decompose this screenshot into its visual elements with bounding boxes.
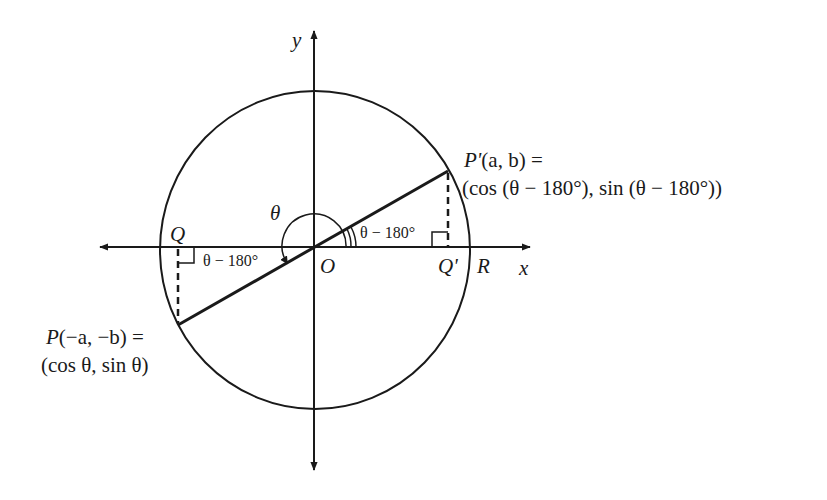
theta-label: θ: [270, 203, 280, 224]
p-value: (cos θ, sin θ): [41, 355, 149, 376]
reference-angle-label-right: θ − 180°: [360, 225, 415, 241]
reference-angle-arc-right-outer: [351, 227, 356, 247]
reference-angle-label-left: θ − 180°: [203, 253, 258, 269]
p-name: P: [46, 325, 59, 349]
reference-angle-arc-right-inner: [347, 229, 351, 247]
p-prime-name: P': [464, 148, 481, 172]
point-label-q-prime: Q': [438, 256, 458, 277]
right-angle-marker-q: [178, 247, 194, 263]
p-annotation: P(−a, −b) =: [46, 327, 144, 348]
p-coords: (−a, −b) =: [59, 325, 144, 349]
p-prime-coords: (a, b) =: [481, 148, 542, 172]
x-axis-label: x: [519, 258, 528, 279]
p-prime-value: (cos (θ − 180°), sin (θ − 180°)): [462, 178, 722, 199]
point-label-r: R: [477, 256, 490, 277]
point-label-origin: O: [320, 256, 335, 277]
right-angle-marker-q-prime: [432, 232, 448, 247]
point-label-q: Q: [170, 224, 185, 245]
unit-circle-diagram: [0, 0, 827, 500]
y-axis-label: y: [292, 30, 301, 51]
p-prime-annotation: P'(a, b) =: [464, 150, 543, 171]
